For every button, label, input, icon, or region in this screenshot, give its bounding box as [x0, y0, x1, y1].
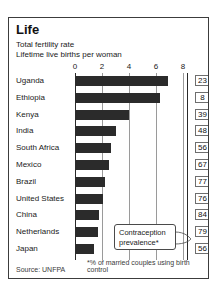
category-label-china: China: [16, 210, 37, 219]
x-tick-label-8: 8: [181, 62, 185, 71]
bar-india: [75, 126, 116, 136]
chart-panel: Life Total fertility rate Lifetime live …: [8, 17, 209, 279]
category-label-kenya: Kenya: [16, 110, 39, 119]
bar-south-africa: [75, 143, 111, 153]
category-label-united-states: United States: [16, 194, 64, 203]
bar-row: United States: [9, 191, 209, 208]
category-label-japan: Japan: [16, 244, 38, 253]
x-tick-label-2: 2: [100, 62, 104, 71]
bar-kenya: [75, 110, 129, 120]
value-box-brazil: 77: [195, 176, 209, 187]
source-label: Source: UNFPA: [16, 266, 65, 273]
bar-netherlands: [75, 227, 98, 237]
value-box-netherlands: 79: [195, 226, 209, 237]
value-box-kenya: 39: [195, 109, 209, 120]
footnote-label: *% of married couples using birth contro…: [87, 259, 208, 273]
bar-row: Mexico: [9, 157, 209, 174]
callout-line-1: Contraception: [119, 228, 172, 238]
x-tick-label-0: 0: [73, 62, 77, 71]
callout-line-2: prevalence*: [119, 238, 172, 248]
value-box-japan: 56: [195, 243, 209, 254]
category-label-netherlands: Netherlands: [16, 227, 59, 236]
value-box-ethiopia: 8: [195, 92, 209, 103]
bar-row: Brazil: [9, 174, 209, 191]
bar-japan: [75, 244, 94, 254]
chart-subtitle-secondary: Lifetime live births per woman: [16, 50, 122, 59]
bar-row: China: [9, 207, 209, 224]
value-box-uganda: 23: [195, 75, 209, 86]
bar-united-states: [75, 194, 103, 204]
bar-row: Uganda: [9, 73, 209, 90]
bar-row: South Africa: [9, 140, 209, 157]
bar-mexico: [75, 160, 109, 170]
value-box-china: 84: [195, 209, 209, 220]
value-box-south-africa: 56: [195, 142, 209, 153]
category-label-uganda: Uganda: [16, 76, 44, 85]
bar-brazil: [75, 177, 105, 187]
category-label-india: India: [16, 126, 33, 135]
category-label-mexico: Mexico: [16, 160, 41, 169]
bar-row: India: [9, 123, 209, 140]
callout-leader-line: [175, 230, 195, 246]
bar-china: [75, 210, 99, 220]
page-title: Life: [16, 22, 39, 37]
x-tick-label-6: 6: [154, 62, 158, 71]
x-axis-tick-labels: 02468: [9, 62, 209, 73]
category-label-brazil: Brazil: [16, 177, 36, 186]
chart-subtitle-primary: Total fertility rate: [16, 40, 74, 49]
callout-contraception-prevalence: Contraception prevalence*: [114, 224, 176, 250]
value-box-united-states: 76: [195, 193, 209, 204]
value-box-india: 48: [195, 125, 209, 136]
bar-row: Kenya: [9, 107, 209, 124]
bar-uganda: [75, 76, 168, 86]
category-label-ethiopia: Ethiopia: [16, 93, 45, 102]
x-tick-label-4: 4: [127, 62, 131, 71]
value-box-mexico: 67: [195, 159, 209, 170]
category-label-south-africa: South Africa: [16, 143, 59, 152]
bar-row: Ethiopia: [9, 90, 209, 107]
bar-ethiopia: [75, 93, 160, 103]
